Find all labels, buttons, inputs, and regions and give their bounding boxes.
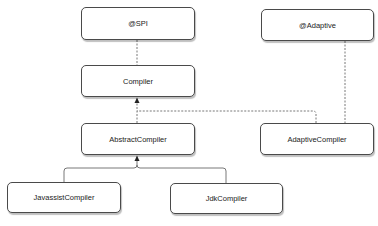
- node-adaptive: @Adaptive: [261, 9, 374, 41]
- edge-javassist-abstractcompiler: [64, 158, 137, 182]
- node-label: Compiler: [123, 77, 153, 86]
- arrowhead-icon: [135, 98, 140, 104]
- node-abstract-compiler: AbstractCompiler: [81, 123, 195, 155]
- node-label: @Adaptive: [299, 21, 336, 30]
- node-label: AdaptiveCompiler: [287, 135, 346, 144]
- edge-adaptivecompiler-compiler: [137, 111, 316, 123]
- node-spi: @SPI: [81, 7, 195, 40]
- node-adaptive-compiler: AdaptiveCompiler: [260, 123, 374, 155]
- node-label: AbstractCompiler: [109, 135, 167, 144]
- edge-jdk-abstractcompiler: [137, 165, 226, 183]
- node-javassist-compiler: JavassistCompiler: [7, 182, 121, 213]
- node-jdk-compiler: JdkCompiler: [170, 183, 283, 214]
- class-diagram: @SPI Compiler AbstractCompiler @Adaptive…: [0, 0, 378, 226]
- node-label: @SPI: [128, 19, 148, 28]
- node-label: JavassistCompiler: [34, 193, 95, 202]
- node-label: JdkCompiler: [206, 194, 248, 203]
- node-compiler: Compiler: [81, 65, 195, 97]
- arrowhead-icon: [135, 156, 140, 162]
